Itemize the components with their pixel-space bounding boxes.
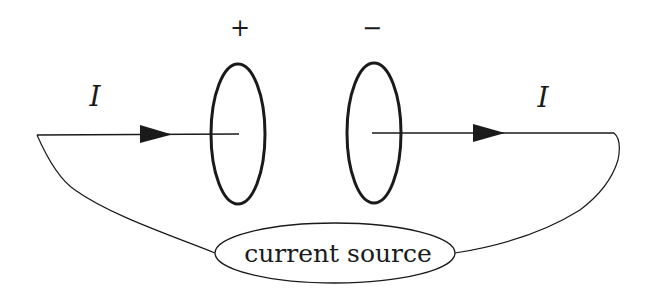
circuit-diagram: + − I I current source bbox=[0, 0, 653, 300]
current-source-label: current source bbox=[244, 239, 432, 268]
left-return-wire bbox=[37, 135, 215, 253]
right-return-wire bbox=[455, 133, 619, 253]
plus-sign-label: + bbox=[230, 14, 250, 42]
arrow-right-icon-right bbox=[473, 124, 505, 142]
left-wire bbox=[37, 134, 239, 135]
minus-sign-label: − bbox=[362, 14, 382, 42]
current-label-right: I bbox=[536, 81, 549, 114]
arrow-right-icon-left bbox=[140, 125, 172, 143]
current-label-left: I bbox=[88, 80, 101, 113]
